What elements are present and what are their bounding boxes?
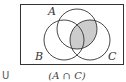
venn-diagram: A B C U (A ∩ C) <box>0 0 126 82</box>
set-label-a: A <box>47 5 56 18</box>
universe-label: U <box>2 70 9 81</box>
caption: (A ∩ C) <box>48 70 86 81</box>
set-label-c: C <box>108 50 117 63</box>
set-label-b: B <box>34 50 43 63</box>
